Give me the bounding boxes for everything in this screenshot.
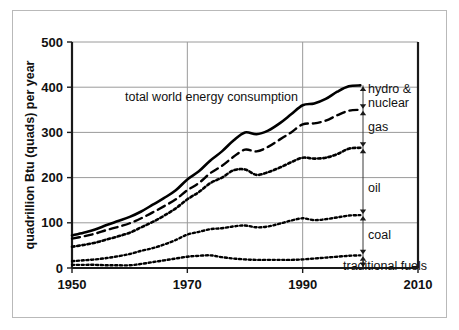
y-tick-label: 100 (41, 215, 63, 230)
stack-bracket-group (360, 85, 366, 268)
series-label-coal: coal (368, 228, 391, 242)
x-tick-label: 1970 (173, 277, 202, 292)
bracket-arrow-down (360, 111, 366, 116)
bracket-arrow-up (360, 250, 366, 255)
x-tick-label: 1990 (288, 277, 317, 292)
y-axis-title: quadrillion Btu (quads) per year (23, 60, 37, 249)
figure-root: 0100200300400500 1950197019902010 quadri… (0, 0, 459, 330)
bracket-arrow-up (360, 142, 366, 147)
x-tick-label: 1950 (58, 277, 87, 292)
series-label-hydro-nuclear-line2: nuclear (368, 96, 409, 110)
y-tick-label: 300 (41, 125, 63, 140)
bracket-arrow-down (360, 216, 366, 221)
y-tick-label: 400 (41, 80, 63, 95)
y-tick-label: 0 (56, 261, 63, 276)
bracket-arrow-down (360, 149, 366, 154)
series-total-world-energy-consumption (72, 85, 360, 235)
y-axis-ticks: 0100200300400500 (41, 35, 72, 276)
series-label-hydro-nuclear-line1: hydro & (368, 82, 412, 96)
series-label-oil: oil (368, 181, 381, 195)
data-series-group (72, 85, 360, 265)
series-label-gas: gas (368, 120, 388, 134)
total-consumption-annotation: total world energy consumption (125, 90, 298, 104)
bracket-arrow-up (360, 104, 366, 109)
x-tick-label: 2010 (404, 277, 433, 292)
bracket-arrow-up (360, 210, 366, 215)
energy-consumption-line-chart: 0100200300400500 1950197019902010 quadri… (0, 0, 459, 330)
y-tick-label: 500 (41, 35, 63, 50)
series-label-traditional-fuels: traditional fuels (343, 259, 427, 273)
series-gas-boundary (72, 148, 360, 247)
y-tick-label: 200 (41, 170, 63, 185)
